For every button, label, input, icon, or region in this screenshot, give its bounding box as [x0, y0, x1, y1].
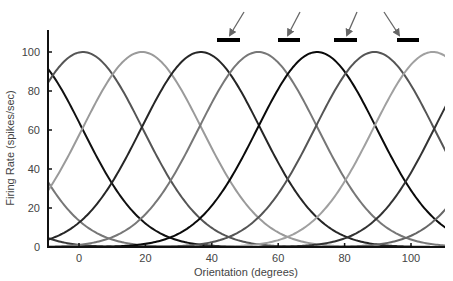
y-tick-label: 20 [28, 202, 40, 214]
y-tick-label: 60 [28, 124, 40, 136]
tuning-curve [44, 64, 447, 247]
tuning-curve [44, 103, 447, 247]
y-tick-label: 40 [28, 163, 40, 175]
arrow-icon [288, 12, 300, 35]
tuning-curve [44, 52, 447, 247]
y-tick-label: 100 [22, 46, 40, 58]
y-axis-label: Firing Rate (spikes/sec) [4, 90, 16, 206]
arrow-icon [347, 12, 357, 35]
x-tick-label: 80 [338, 252, 350, 264]
x-tick-label: 40 [206, 252, 218, 264]
arrow-icon [384, 12, 399, 35]
stimulus-bar [397, 38, 419, 42]
stimulus-bar [334, 38, 357, 42]
stimulus-bar [278, 38, 300, 42]
stimulus-annotations [217, 12, 419, 42]
tuning-curves-chart: 020406080100 020406080100 Orientation (d… [0, 0, 453, 281]
arrow-icon [230, 12, 244, 35]
x-tick-label: 0 [76, 252, 82, 264]
stimulus-bar [217, 38, 240, 42]
x-tick-label: 60 [272, 252, 284, 264]
y-tick-label: 80 [28, 85, 40, 97]
y-tick-label: 0 [34, 241, 40, 253]
x-axis-label: Orientation (degrees) [194, 266, 298, 278]
x-tick-label: 100 [402, 252, 420, 264]
axes [47, 30, 445, 247]
tuning-curve [44, 176, 447, 247]
x-tick-label: 20 [139, 252, 151, 264]
tuning-curves [44, 52, 447, 247]
